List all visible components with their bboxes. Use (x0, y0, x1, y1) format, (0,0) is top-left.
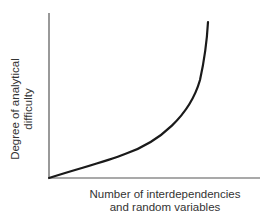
difficulty-curve (49, 22, 208, 178)
chart: Degree of analytical difficulty Number o… (0, 0, 274, 221)
y-axis-label: Degree of analytical difficulty (9, 29, 35, 189)
x-axis-label: Number of interdependencies and random v… (80, 188, 250, 214)
